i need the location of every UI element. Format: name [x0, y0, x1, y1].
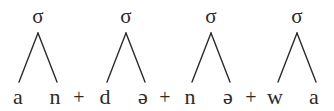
segment-1-2: n — [44, 86, 66, 108]
segment-3-2: ə — [217, 86, 239, 108]
syllable-node-4: σ — [285, 6, 309, 27]
syllable-node-1: σ — [26, 6, 50, 27]
branch-right-4 — [297, 33, 316, 82]
morpheme-boundary-1: + — [70, 87, 88, 107]
branch-left-3 — [192, 33, 211, 82]
morpheme-boundary-2: + — [156, 87, 174, 107]
segment-4-2: a — [303, 86, 325, 108]
morpheme-boundary-3: + — [242, 87, 260, 107]
branch-left-2 — [107, 33, 126, 82]
syllable-node-2: σ — [114, 6, 138, 27]
segment-4-1: w — [264, 86, 286, 108]
branch-left-4 — [278, 33, 297, 82]
segment-2-1: d — [94, 86, 116, 108]
segment-1-1: a — [7, 86, 29, 108]
branch-left-1 — [19, 33, 38, 82]
syllable-node-3: σ — [199, 6, 223, 27]
branch-right-3 — [211, 33, 230, 82]
branch-right-2 — [126, 33, 145, 82]
syllable-structure-diagram: σ σ σ σ a n + d ə + n ə + w a — [0, 0, 334, 111]
branch-right-1 — [38, 33, 57, 82]
segment-2-2: ə — [132, 86, 154, 108]
segment-3-1: n — [179, 86, 201, 108]
